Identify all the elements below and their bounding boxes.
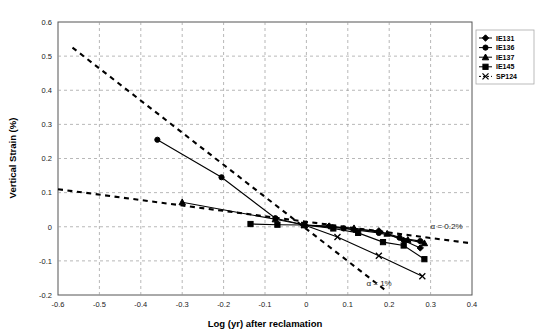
legend-item-label: IE131: [496, 35, 514, 42]
y-tick-label: 0.2: [42, 154, 52, 163]
legend-item-label: IE145: [496, 63, 514, 70]
legend-item-label: SP124: [496, 73, 517, 80]
x-tick-label: -0.1: [259, 300, 272, 309]
legend-item-IE136[interactable]: IE136: [479, 44, 514, 51]
x-tick-label: -0.3: [176, 300, 189, 309]
x-tick-label: -0.6: [52, 300, 65, 309]
y-tick-label: -0.2: [39, 291, 52, 300]
data-point-square: [356, 230, 361, 235]
y-tick-label: 0: [48, 223, 52, 232]
x-axis-title: Log (yr) after reclamation: [208, 318, 323, 329]
y-axis-ticks: 0.60.50.40.30.20.10-0.1-0.2: [39, 18, 52, 300]
data-point-square: [401, 243, 406, 248]
legend-item-label: IE136: [496, 44, 514, 51]
x-tick-label: 0.1: [343, 300, 353, 309]
data-point-square: [248, 221, 253, 226]
data-point-square: [275, 222, 280, 227]
legend-item-IE131[interactable]: IE131: [479, 35, 514, 42]
data-point-square: [331, 226, 336, 231]
x-tick-label: -0.4: [134, 300, 147, 309]
data-point-square: [483, 64, 488, 69]
data-point-circle: [219, 175, 224, 180]
y-tick-label: -0.1: [39, 257, 52, 266]
y-tick-label: 0.6: [42, 18, 52, 27]
legend-item-label: IE137: [496, 54, 514, 61]
y-tick-label: 0.5: [42, 52, 52, 61]
data-point-square: [422, 257, 427, 262]
y-tick-label: 0.4: [42, 86, 52, 95]
reference-line-label: α = 0.2%: [431, 222, 463, 231]
plot-area: α = 1%α = 0.2%: [58, 22, 472, 295]
x-tick-label: -0.5: [93, 300, 106, 309]
y-tick-label: 0.3: [42, 120, 52, 129]
chart-figure: α = 1%α = 0.2% -0.6-0.5-0.4-0.3-0.2-0.10…: [0, 0, 540, 336]
data-point-square: [380, 240, 385, 245]
x-tick-label: 0.2: [384, 300, 394, 309]
legend-item-IE145[interactable]: IE145: [479, 63, 514, 70]
y-axis-title: Vertical Strain (%): [7, 118, 18, 199]
data-point-circle: [155, 137, 160, 142]
x-tick-label: -0.2: [217, 300, 230, 309]
x-tick-label: 0.4: [467, 300, 477, 309]
x-tick-label: 0.3: [425, 300, 435, 309]
y-tick-label: 0.1: [42, 188, 52, 197]
data-point-circle: [483, 45, 488, 50]
x-tick-label: 0: [304, 300, 308, 309]
legend[interactable]: IE131IE136IE137IE145SP124: [476, 30, 534, 84]
reference-line-label: α = 1%: [366, 279, 391, 288]
